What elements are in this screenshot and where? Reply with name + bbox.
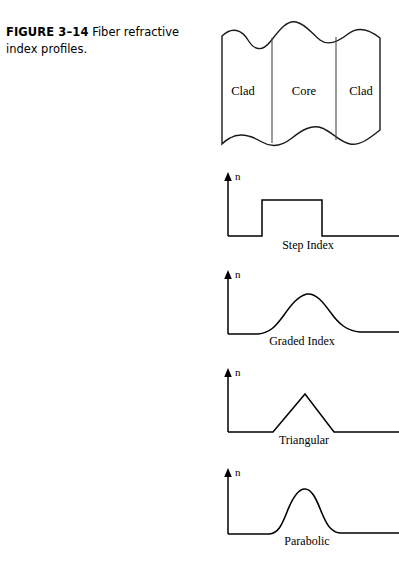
profile-plot-graded-index: n [214, 266, 399, 344]
series-triangular [228, 394, 399, 432]
fiber-label-clad-left: Clad [231, 84, 255, 98]
series-graded-index [228, 294, 399, 334]
figure-caption: FIGURE 3–14 Fiber refractive index profi… [6, 24, 196, 58]
series-step-index [228, 200, 399, 236]
y-axis-label: n [235, 366, 241, 378]
plot-caption-graded-index: Graded Index [222, 334, 382, 349]
y-axis-label: n [235, 170, 241, 182]
series-parabolic [228, 489, 399, 534]
profile-plot-step-index: n [214, 168, 399, 246]
fiber-cross-section: Clad Core Clad [214, 12, 386, 162]
y-axis-arrow-icon [224, 468, 232, 477]
y-axis-arrow-icon [224, 270, 232, 279]
fiber-label-core: Core [292, 84, 317, 98]
profile-plot-triangular: n [214, 364, 399, 442]
y-axis-arrow-icon [224, 368, 232, 377]
fiber-label-clad-right: Clad [349, 84, 373, 98]
y-axis-arrow-icon [224, 172, 232, 181]
plot-caption-triangular: Triangular [224, 433, 384, 448]
plot-caption-parabolic: Parabolic [227, 534, 387, 549]
figure-number: FIGURE 3–14 [6, 25, 88, 39]
y-axis-label: n [235, 466, 241, 478]
plot-caption-step-index: Step Index [228, 238, 388, 253]
y-axis-label: n [235, 268, 241, 280]
